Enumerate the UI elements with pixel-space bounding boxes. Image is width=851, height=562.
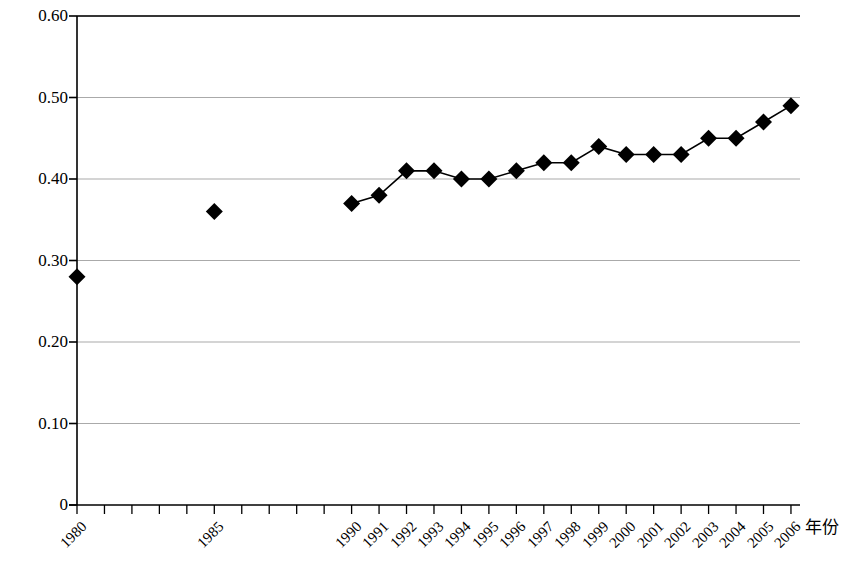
chart-container: 0.600.500.400.300.200.100 19801985199019… <box>0 0 851 562</box>
x-axis-tick-label: 1980 <box>35 519 89 562</box>
x-axis-tick-labels: 1980198519901991199219931994199519961997… <box>0 0 851 562</box>
x-axis-title: 年份 <box>805 519 839 536</box>
x-axis-tick-label: 1985 <box>172 519 226 562</box>
